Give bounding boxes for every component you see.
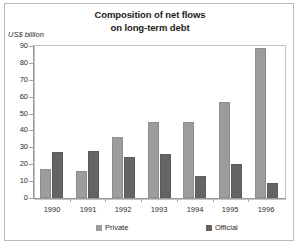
x-axis-tick <box>213 198 214 202</box>
y-axis-tick-value: 70 <box>6 76 28 83</box>
y-axis-tick <box>29 80 33 81</box>
x-axis-tick-label-1995: 1995 <box>213 205 247 214</box>
y-axis-tick-label: 70 <box>4 76 28 84</box>
chart-figure: Composition of net flows on long-term de… <box>0 0 298 245</box>
y-axis-tick <box>29 164 33 165</box>
y-axis-tick-label: 40 <box>4 126 28 134</box>
y-axis-tick-value: 20 <box>6 160 28 167</box>
y-axis-tick-label: 60 <box>4 93 28 101</box>
bar-official-1996 <box>267 183 278 198</box>
x-axis-tick-label-1996: 1996 <box>249 205 283 214</box>
chart-title-line-1: Composition of net flows <box>94 9 205 20</box>
chart-title-line-2: on long-term debt <box>40 22 260 35</box>
y-axis-tick-label: 30 <box>4 143 28 151</box>
y-axis-tick-label: 50 <box>4 110 28 118</box>
x-axis-tick <box>105 198 106 202</box>
chart-legend: PrivateOfficial <box>34 224 286 236</box>
legend-item-official[interactable]: Official <box>206 224 238 232</box>
plot-area <box>34 46 284 198</box>
y-axis-tick <box>29 130 33 131</box>
y-axis-tick <box>29 198 33 199</box>
x-axis-tick-label-1992: 1992 <box>106 205 140 214</box>
x-axis-tick-label-1990: 1990 <box>35 205 69 214</box>
y-axis-tick <box>29 181 33 182</box>
y-axis-tick <box>29 97 33 98</box>
y-axis-tick <box>29 63 33 64</box>
x-axis-tick <box>177 198 178 202</box>
x-axis-tick-label-1993: 1993 <box>142 205 176 214</box>
x-axis-tick <box>248 198 249 202</box>
y-axis-tick-label: 0 <box>4 194 28 202</box>
y-axis-tick <box>29 147 33 148</box>
y-axis-tick-value: 10 <box>6 177 28 184</box>
y-axis-tick <box>29 46 33 47</box>
y-axis-tick-label: 80 <box>4 59 28 67</box>
y-axis-label: US$ billion <box>8 30 44 39</box>
bar-private-1996 <box>255 48 266 198</box>
chart-title: Composition of net flows on long-term de… <box>40 9 260 34</box>
legend-swatch-icon <box>96 225 102 231</box>
y-axis-tick-value: 40 <box>6 126 28 133</box>
x-axis-tick-label-1994: 1994 <box>178 205 212 214</box>
y-axis-tick-label: 90 <box>4 42 28 50</box>
bar-group <box>34 46 284 198</box>
legend-label: Official <box>215 224 238 232</box>
y-axis-tick <box>29 114 33 115</box>
legend-swatch-icon <box>206 225 212 231</box>
y-axis-tick-label: 10 <box>4 177 28 185</box>
x-axis-tick <box>70 198 71 202</box>
legend-label: Private <box>105 224 128 232</box>
y-axis-tick-value: 30 <box>6 143 28 150</box>
y-axis-tick-label: 20 <box>4 160 28 168</box>
y-axis-tick-value: 60 <box>6 93 28 100</box>
legend-item-private[interactable]: Private <box>96 224 128 232</box>
x-axis-tick <box>141 198 142 202</box>
x-axis-tick-label-1991: 1991 <box>71 205 105 214</box>
y-axis-tick-value: 90 <box>6 42 28 49</box>
y-axis-tick-value: 50 <box>6 110 28 117</box>
y-axis-tick-value: 80 <box>6 59 28 66</box>
y-axis-tick-value: 0 <box>6 194 28 201</box>
